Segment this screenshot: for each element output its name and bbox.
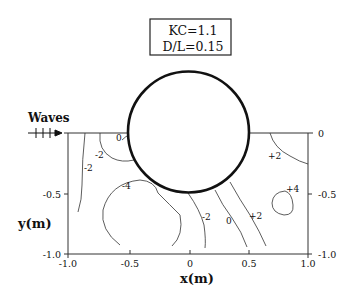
contour-label: +2 (268, 151, 281, 161)
x-axis-label: x(m) (180, 271, 214, 286)
x-tick: -0.5 (121, 258, 139, 269)
x-tick: 1.0 (300, 258, 315, 269)
contour-label: 0 (226, 216, 232, 226)
x-tick: 0.5 (241, 258, 256, 269)
y-tick-right: -0.5 (318, 189, 336, 200)
contour-label: -2 (95, 150, 104, 160)
contour-label: -4 (122, 181, 131, 191)
waves-label: Waves (27, 111, 70, 125)
annotation-dl: D/L=0.15 (163, 39, 224, 54)
y-tick-left: -0.5 (43, 189, 61, 200)
wave-arrow-icon (28, 128, 62, 138)
contour-label: -2 (202, 212, 211, 222)
contour-label: -2 (84, 163, 93, 173)
y-axis-label: y(m) (17, 216, 52, 231)
contour-label: +2 (249, 211, 262, 221)
y-tick-right: -1.0 (318, 249, 336, 260)
annotation-kc: KC=1.1 (169, 23, 218, 38)
x-tick: -1.0 (59, 258, 77, 269)
y-tick-left: -1.0 (43, 249, 61, 260)
contour-label: +4 (286, 184, 300, 194)
y-tick-right: 0 (318, 128, 324, 139)
contour-chart: KC=1.1 D/L=0.15 Waves -1.0 -0.5 0 0.5 1.… (0, 0, 352, 302)
cylinder (128, 72, 249, 193)
contour-label: 0 (116, 133, 122, 143)
x-tick: 0 (187, 258, 193, 269)
